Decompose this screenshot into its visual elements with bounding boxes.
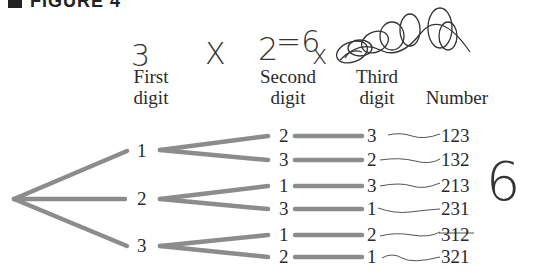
third-digit: 3 [367, 126, 377, 146]
number-result-struck: 312 [441, 225, 470, 245]
first-digit-1: 1 [137, 141, 147, 161]
third-digit: 2 [367, 150, 377, 170]
number-result: 123 [441, 126, 470, 146]
first-digit-2: 2 [137, 189, 147, 209]
third-digit: 1 [367, 199, 377, 219]
second-digit: 1 [279, 225, 289, 245]
first-digit-3: 3 [137, 236, 147, 256]
second-digit: 2 [279, 247, 289, 267]
second-digit: 3 [279, 150, 289, 170]
second-digit: 2 [279, 126, 289, 146]
second-digit: 1 [279, 176, 289, 196]
number-result: 213 [441, 176, 470, 196]
number-result: 231 [441, 199, 470, 219]
number-result: 132 [441, 150, 470, 170]
second-digit: 3 [279, 199, 289, 219]
third-digit: 2 [367, 225, 377, 245]
number-result: 321 [441, 247, 470, 267]
third-digit: 3 [367, 176, 377, 196]
third-digit: 1 [367, 247, 377, 267]
